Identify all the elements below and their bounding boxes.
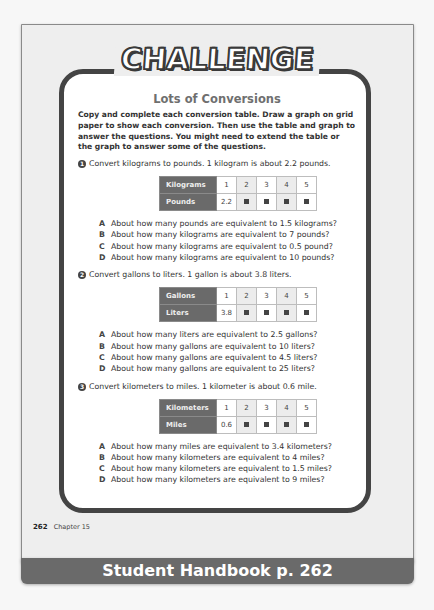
question-list: AAbout how many pounds are equivalent to… [99,218,356,263]
blank-square-icon [304,199,309,204]
question-text: About how many kilometers are equivalent… [111,463,332,474]
number-badge-icon: 3 [78,383,86,391]
question-text: About how many pounds are equivalent to … [111,218,337,229]
question-item: AAbout how many pounds are equivalent to… [99,218,356,229]
table-cell: 1 [217,399,237,416]
handbook-reference-bar: Student Handbook p. 262 [21,558,414,584]
blank-cell [277,416,297,433]
question-letter: A [99,218,111,229]
question-text: About how many gallons are equivalent to… [111,352,317,363]
table-cell: 4 [277,288,297,305]
question-list: AAbout how many liters are equivalent to… [99,329,356,374]
question-text: About how many kilometers are equivalent… [111,474,325,485]
question-text: About how many kilograms are equivalent … [111,252,334,263]
row-header: Gallons [160,288,217,305]
blank-cell [237,194,257,211]
problem-3: 3 Convert kilometers to miles. 1 kilomet… [78,382,356,486]
problem-prompt: 3 Convert kilometers to miles. 1 kilomet… [78,382,356,392]
blank-square-icon [264,199,269,204]
question-text: About how many miles are equivalent to 3… [111,441,332,452]
row-header: Kilograms [160,177,217,194]
problem-prompt-text: Convert kilograms to pounds. 1 kilogram … [89,159,331,169]
question-item: BAbout how many kilograms are equivalent… [99,229,356,240]
problem-prompt-text: Convert kilometers to miles. 1 kilometer… [89,382,317,392]
question-item: CAbout how many kilometers are equivalen… [99,463,356,474]
blank-square-icon [284,310,289,315]
blank-cell [297,194,317,211]
row-header: Miles [160,416,217,433]
blank-square-icon [284,422,289,427]
table-cell: 2 [237,288,257,305]
question-letter: B [99,452,111,463]
activity-title: Lots of Conversions [78,92,356,106]
table-cell: 5 [297,399,317,416]
conversion-table: Gallons 1 2 3 4 5 Liters 3.8 [159,287,317,322]
conversion-table: Kilometers 1 2 3 4 5 Miles 0.6 [159,399,317,434]
problem-2: 2 Convert gallons to liters. 1 gallon is… [78,270,356,374]
question-text: About how many gallons are equivalent to… [111,363,315,374]
table-cell: 0.6 [217,416,237,433]
question-text: About how many gallons are equivalent to… [111,341,315,352]
problem-prompt: 1 Convert kilograms to pounds. 1 kilogra… [78,159,356,169]
row-header: Liters [160,305,217,322]
blank-square-icon [304,310,309,315]
blank-cell [237,305,257,322]
question-list: AAbout how many miles are equivalent to … [99,441,356,486]
blank-square-icon [284,199,289,204]
table-cell: 2 [237,399,257,416]
question-letter: B [99,341,111,352]
question-item: AAbout how many miles are equivalent to … [99,441,356,452]
question-text: About how many liters are equivalent to … [111,329,317,340]
question-text: About how many kilograms are equivalent … [111,241,333,252]
blank-cell [257,194,277,211]
table-cell: 1 [217,177,237,194]
card-content: Lots of Conversions Copy and complete ea… [78,82,356,493]
blank-cell [297,305,317,322]
question-letter: A [99,441,111,452]
chapter-label: Chapter 15 [54,523,90,531]
blank-cell [237,416,257,433]
question-text: About how many kilometers are equivalent… [111,452,325,463]
table-cell: 4 [277,177,297,194]
challenge-banner-text: CHALLENGE [114,42,321,76]
question-item: DAbout how many kilometers are equivalen… [99,474,356,485]
row-header: Kilometers [160,399,217,416]
table-cell: 2.2 [217,194,237,211]
question-letter: D [99,474,111,485]
intro-text: Copy and complete each conversion table.… [78,110,356,153]
blank-cell [277,194,297,211]
question-item: DAbout how many gallons are equivalent t… [99,363,356,374]
table-cell: 4 [277,399,297,416]
blank-cell [257,305,277,322]
table-cell: 1 [217,288,237,305]
question-letter: D [99,252,111,263]
problem-prompt: 2 Convert gallons to liters. 1 gallon is… [78,270,356,280]
question-letter: D [99,363,111,374]
page-number: 262 [33,523,48,531]
question-item: CAbout how many kilograms are equivalent… [99,241,356,252]
conversion-table: Kilograms 1 2 3 4 5 Pounds 2.2 [159,176,317,211]
number-badge-icon: 1 [78,160,86,168]
page-footer: 262Chapter 15 [33,523,90,531]
blank-square-icon [244,199,249,204]
blank-square-icon [244,422,249,427]
problem-prompt-text: Convert gallons to liters. 1 gallon is a… [89,270,292,280]
blank-cell [277,305,297,322]
question-letter: C [99,352,111,363]
number-badge-icon: 2 [78,271,86,279]
blank-square-icon [304,422,309,427]
table-cell: 5 [297,177,317,194]
row-header: Pounds [160,194,217,211]
table-cell: 5 [297,288,317,305]
table-cell: 3 [257,288,277,305]
problem-1: 1 Convert kilograms to pounds. 1 kilogra… [78,159,356,263]
question-letter: C [99,241,111,252]
blank-cell [297,416,317,433]
blank-square-icon [264,422,269,427]
question-item: CAbout how many gallons are equivalent t… [99,352,356,363]
blank-square-icon [264,310,269,315]
challenge-banner: CHALLENGE [22,42,413,76]
question-item: BAbout how many kilometers are equivalen… [99,452,356,463]
table-cell: 3 [257,399,277,416]
handbook-reference-text: Student Handbook p. 262 [102,561,333,580]
